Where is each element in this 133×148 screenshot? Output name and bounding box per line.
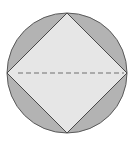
- diagram-canvas: [0, 0, 133, 148]
- circle-inscribed-square-diagram: [0, 0, 133, 148]
